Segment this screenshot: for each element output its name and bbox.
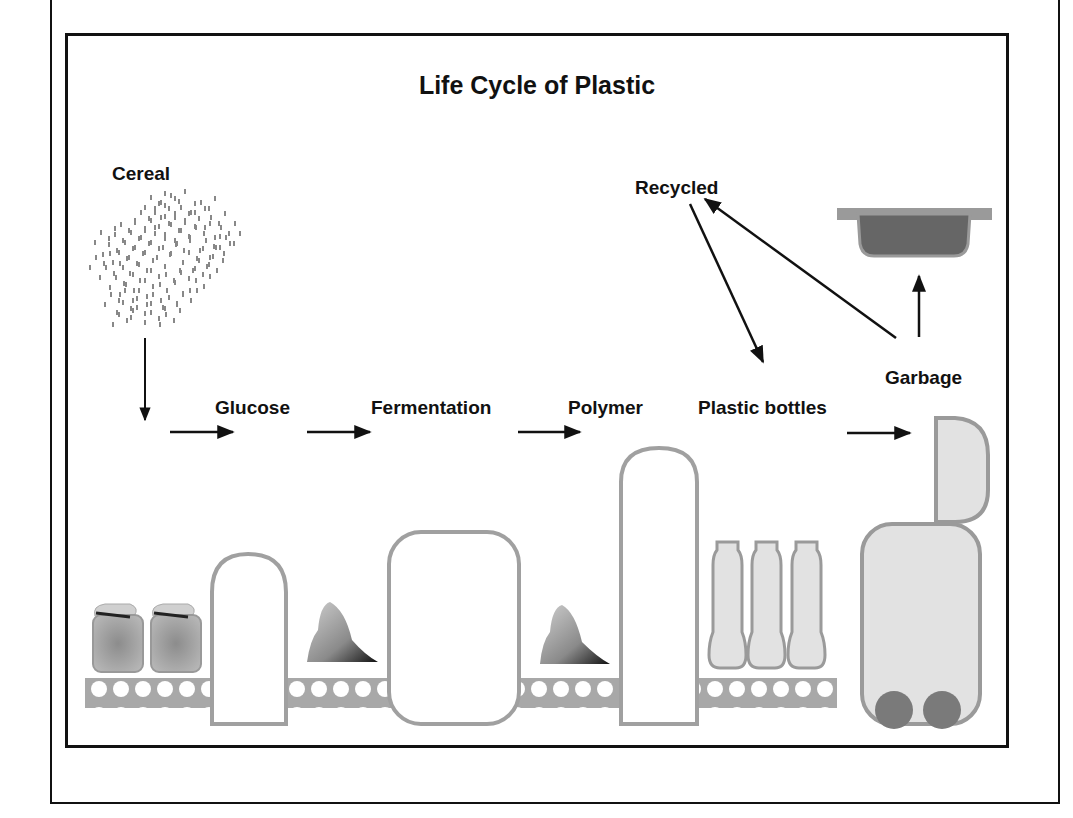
life-cycle-diagram: Life Cycle of Plastic Cereal Glucose Fer… xyxy=(0,0,1073,818)
label-cereal: Cereal xyxy=(112,163,170,184)
label-fermentation: Fermentation xyxy=(371,397,491,418)
polymer-tower-icon xyxy=(621,448,697,724)
label-plastic-bottles: Plastic bottles xyxy=(698,397,827,418)
diagram-title: Life Cycle of Plastic xyxy=(419,71,655,99)
fermentation-tank-icon xyxy=(389,532,519,724)
tray-icon xyxy=(837,208,992,256)
label-garbage: Garbage xyxy=(885,367,962,388)
label-glucose: Glucose xyxy=(215,397,290,418)
powder-pile-icon xyxy=(540,605,610,664)
bottle-icon xyxy=(748,542,785,668)
trash-bin-icon xyxy=(862,418,988,729)
sack-icon xyxy=(151,604,201,672)
powder-pile-icon xyxy=(307,602,378,662)
arrow-recycled-to-bottles xyxy=(690,204,763,362)
sack-icon xyxy=(93,604,143,672)
grain-scatter-icon xyxy=(89,189,241,327)
label-polymer: Polymer xyxy=(568,397,644,418)
bottle-icon xyxy=(788,542,825,668)
glucose-machine-icon xyxy=(212,554,286,724)
bottle-icon xyxy=(709,542,746,668)
label-recycled: Recycled xyxy=(635,177,718,198)
